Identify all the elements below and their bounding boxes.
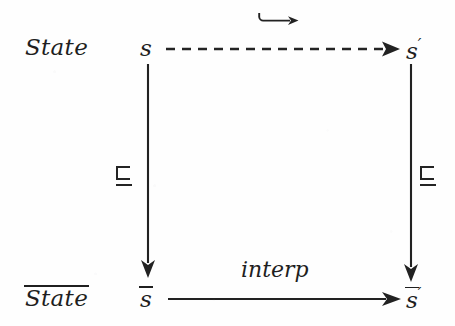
edge-right-label-sqsubseteq (420, 166, 437, 187)
edge-left-label-sqsubseteq (116, 166, 133, 187)
edge-top-dashed-arrow (166, 38, 402, 60)
node-bottom-left: s (140, 286, 152, 311)
edge-right-solid-arrow (400, 64, 422, 283)
edge-bottom-label-interp: interp (241, 259, 309, 281)
diagram-canvas: State State s s′ s s′ interp (0, 0, 455, 326)
node-top-right-prime: ′ (418, 35, 422, 54)
node-top-right-base: s (406, 38, 418, 64)
node-top-left: s (140, 37, 152, 60)
hookrightarrow-icon (256, 8, 300, 28)
node-bottom-left-base: s (140, 286, 152, 311)
row-label-state-concrete: State (25, 36, 88, 59)
node-top-right: s′ (406, 37, 421, 63)
edge-top-label-hookrightarrow (256, 8, 300, 28)
row-label-state-abstract: State (25, 285, 88, 310)
row-label-state-abstract-text: State (25, 285, 88, 310)
node-bottom-right: s′ (406, 286, 421, 312)
edge-left-solid-arrow (137, 64, 159, 279)
node-bottom-right-base: s (406, 287, 418, 312)
edge-bottom-solid-arrow (168, 288, 402, 310)
